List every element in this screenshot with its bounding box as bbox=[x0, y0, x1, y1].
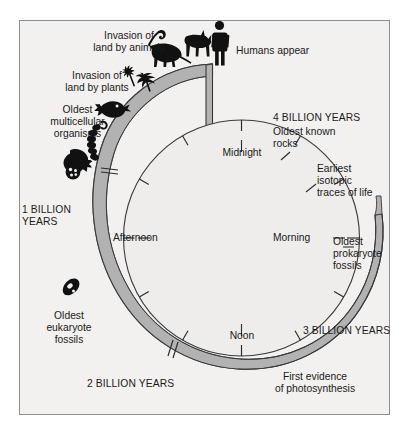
label-2-billion-years: 2 BILLION YEARS bbox=[87, 378, 174, 390]
figure-root: Invasion of land by animals Invasion of … bbox=[0, 0, 408, 434]
label-eukaryote-fossils: Oldest eukaryote fossils bbox=[21, 310, 117, 346]
label-isotopic-traces: Earliest isotopic traces of life bbox=[317, 163, 373, 199]
band-terminus-midnight bbox=[206, 64, 213, 128]
label-invasion-animals: Invasion of land by animals bbox=[54, 30, 204, 54]
human-silhouette bbox=[211, 21, 229, 66]
label-prokaryote-fossils: Oldest prokaryote fossils bbox=[333, 236, 382, 272]
label-3-billion-years: 3 BILLION YEARS bbox=[303, 325, 390, 337]
label-oldest-rocks: Oldest known rocks bbox=[273, 126, 335, 150]
label-invasion-plants: Invasion of land by plants bbox=[25, 70, 169, 94]
dial-label-noon: Noon bbox=[210, 330, 274, 342]
dial-label-midnight: Midnight bbox=[204, 147, 280, 159]
label-multicellular: Oldest multicellular organisms bbox=[15, 104, 140, 140]
dial-label-afternoon: Afternoon bbox=[113, 232, 158, 244]
eukaryote-fossil-silhouette bbox=[63, 278, 80, 295]
label-4-billion-years: 4 BILLION YEARS bbox=[273, 112, 360, 124]
label-photosynthesis: First evidence of photosynthesis bbox=[243, 371, 387, 395]
dial-label-morning: Morning bbox=[273, 232, 310, 244]
label-1-billion-years: 1 BILLION YEARS bbox=[22, 204, 71, 228]
cell-silhouette bbox=[66, 165, 81, 180]
label-humans-appear: Humans appear bbox=[236, 45, 309, 57]
band-tail-taper bbox=[375, 196, 382, 215]
